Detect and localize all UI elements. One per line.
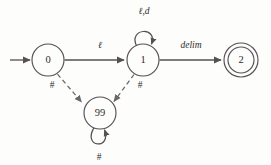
edge-1-to-99-label: # <box>138 80 143 90</box>
edge-1-self-loop-label: ℓ,d <box>138 6 149 16</box>
transition-1-to-99: # <box>114 75 143 102</box>
state-node-2[interactable]: 2 <box>224 43 258 77</box>
state-node-1[interactable]: 1 <box>127 44 159 76</box>
edge-1-to-2-label: delim <box>180 40 201 50</box>
transition-99-self-loop: # <box>91 128 106 162</box>
transition-1-to-2: delim <box>160 40 222 60</box>
transition-0-to-99: # <box>50 74 82 102</box>
state-diagram-canvas: ℓ ℓ,d delim # # # 0 <box>0 0 271 165</box>
transition-0-to-1: ℓ <box>65 40 125 60</box>
state-2-label: 2 <box>238 54 243 65</box>
edge-99-self-loop-label: # <box>97 152 102 162</box>
edge-99-self-loop-line <box>91 128 106 144</box>
edge-1-to-99-line <box>114 75 134 102</box>
edge-0-to-99-line <box>58 74 82 102</box>
state-node-99[interactable]: 99 <box>84 97 116 129</box>
state-node-0[interactable]: 0 <box>32 44 64 76</box>
state-diagram-svg: ℓ ℓ,d delim # # # 0 <box>0 0 271 165</box>
transition-1-self-loop: ℓ,d <box>135 6 152 46</box>
edge-0-to-99-label: # <box>50 80 55 90</box>
state-99-label: 99 <box>95 107 106 118</box>
state-0-label: 0 <box>45 54 50 65</box>
state-1-label: 1 <box>140 54 145 65</box>
edge-0-to-1-label: ℓ <box>98 40 102 50</box>
